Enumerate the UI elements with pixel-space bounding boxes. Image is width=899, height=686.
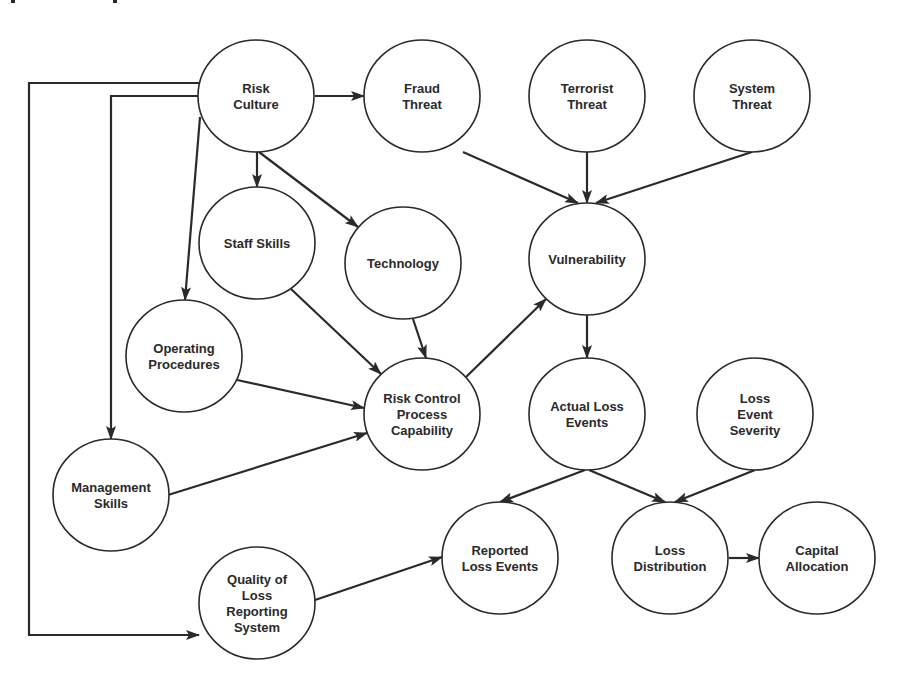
edge-quality-loss-reporting-to-reported-loss-events: [315, 557, 442, 600]
node-label: Reporting: [226, 604, 287, 619]
node-label: Procedures: [148, 357, 220, 372]
node-label: Loss Events: [462, 559, 539, 574]
edge-risk-control-to-vulnerability: [466, 299, 546, 377]
node-actual-loss-events: Actual LossEvents: [529, 358, 645, 470]
node-label: Terrorist: [561, 81, 614, 96]
edge-actual-loss-events-to-reported-loss-events: [500, 470, 585, 502]
node-risk-culture: RiskCulture: [198, 40, 314, 152]
node-label: Risk Control: [383, 391, 460, 406]
diagram-canvas: RiskCultureFraudThreatTerroristThreatSys…: [0, 0, 899, 686]
node-label: Staff Skills: [224, 236, 290, 251]
node-label: Operating: [153, 341, 214, 356]
node-technology: Technology: [345, 207, 461, 319]
node-label: Vulnerability: [548, 252, 626, 267]
node-terrorist-threat: TerroristThreat: [529, 40, 645, 152]
edge-management-skills-to-risk-control: [168, 433, 367, 495]
node-staff-skills: Staff Skills: [199, 187, 315, 299]
node-label: Reported: [471, 543, 528, 558]
node-label: Culture: [233, 97, 279, 112]
node-label: Allocation: [786, 559, 849, 574]
node-label: Risk: [242, 81, 270, 96]
node-label: Severity: [730, 423, 781, 438]
edge-operating-procedures-to-risk-control: [237, 380, 364, 408]
clipped-heading-fragment: [11, 0, 117, 3]
node-label: System: [234, 620, 280, 635]
nodes-layer: RiskCultureFraudThreatTerroristThreatSys…: [53, 40, 875, 659]
edge-risk-culture-to-operating-procedures: [185, 117, 200, 300]
node-label: Threat: [732, 97, 772, 112]
node-label: Capability: [391, 423, 454, 438]
node-label: Process: [397, 407, 448, 422]
node-label: Threat: [567, 97, 607, 112]
node-operating-procedures: OperatingProcedures: [126, 300, 242, 412]
node-reported-loss-events: ReportedLoss Events: [442, 502, 558, 614]
node-fraud-threat: FraudThreat: [364, 40, 480, 152]
node-label: Management: [71, 480, 151, 495]
node-loss-event-severity: LossEventSeverity: [697, 358, 813, 470]
node-management-skills: ManagementSkills: [53, 439, 169, 551]
node-quality-loss-reporting: Quality ofLossReportingSystem: [199, 547, 315, 659]
node-loss-distribution: LossDistribution: [612, 502, 728, 614]
edge-fraud-threat-to-vulnerability: [463, 152, 578, 203]
node-label: Threat: [402, 97, 442, 112]
node-label: Event: [737, 407, 773, 422]
node-label: Quality of: [227, 572, 288, 587]
node-label: Loss: [655, 543, 685, 558]
node-label: Loss: [242, 588, 272, 603]
edge-system-threat-to-vulnerability: [596, 152, 752, 203]
node-label: Loss: [740, 391, 770, 406]
edge-technology-to-risk-control: [413, 319, 426, 358]
node-capital-allocation: CapitalAllocation: [759, 502, 875, 614]
node-label: Skills: [94, 496, 128, 511]
node-vulnerability: Vulnerability: [529, 203, 645, 315]
node-label: Capital: [795, 543, 838, 558]
node-label: System: [729, 81, 775, 96]
node-label: Distribution: [634, 559, 707, 574]
node-system-threat: SystemThreat: [694, 40, 810, 152]
edge-actual-loss-events-to-loss-distribution: [589, 470, 665, 502]
node-label: Events: [566, 415, 609, 430]
risk-causal-diagram: RiskCultureFraudThreatTerroristThreatSys…: [0, 0, 899, 686]
node-label: Technology: [367, 256, 440, 271]
node-label: Actual Loss: [550, 399, 624, 414]
node-risk-control: Risk ControlProcessCapability: [364, 358, 480, 470]
node-label: Fraud: [404, 81, 440, 96]
edge-loss-event-severity-to-loss-distribution: [675, 470, 755, 502]
